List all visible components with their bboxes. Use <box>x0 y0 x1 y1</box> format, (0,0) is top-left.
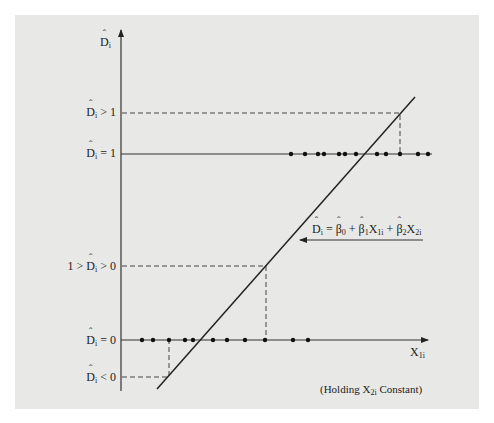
regression-equation: Di = β0 + β1X1i + β2X2i <box>312 223 421 237</box>
data-point <box>316 152 320 156</box>
data-point <box>303 152 307 156</box>
level-label-lt0: Di < 0 <box>86 371 116 385</box>
y-axis-label: Di <box>100 36 111 50</box>
regression-line <box>157 97 415 389</box>
holding-constant-note: (Holding X2i Constant) <box>320 384 422 397</box>
data-point <box>343 152 347 156</box>
data-point <box>322 152 326 156</box>
data-point <box>289 152 293 156</box>
level-label-eq0: Di = 0 <box>86 334 116 348</box>
level-label-gt1: Di > 1 <box>86 106 116 120</box>
data-point <box>398 152 402 156</box>
data-point <box>191 338 195 342</box>
data-point <box>306 338 310 342</box>
dashed-guides <box>122 113 400 377</box>
level-label-eq1: Di = 1 <box>86 147 116 161</box>
data-point <box>354 152 358 156</box>
data-point <box>211 338 215 342</box>
data-point <box>167 338 171 342</box>
data-point <box>384 152 388 156</box>
data-point <box>225 338 229 342</box>
level-label-between: 1 > Di > 0 <box>68 260 116 274</box>
x-axis-label: X1i <box>410 346 425 360</box>
data-point <box>416 152 420 156</box>
data-point <box>375 152 379 156</box>
data-point <box>337 152 341 156</box>
data-point <box>151 338 155 342</box>
data-point <box>263 338 267 342</box>
data-point <box>183 338 187 342</box>
data-point <box>426 152 430 156</box>
data-point <box>291 338 295 342</box>
data-point <box>243 338 247 342</box>
data-point <box>140 338 144 342</box>
